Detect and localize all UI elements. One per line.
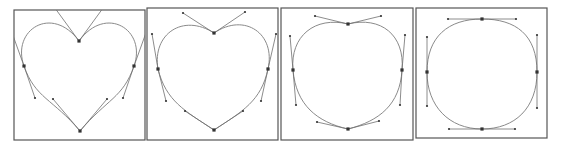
anchor-point-left[interactable]: [425, 70, 428, 73]
panel-frame: [416, 8, 547, 138]
anchor-point-bottom[interactable]: [346, 127, 349, 130]
handle-point[interactable]: [426, 36, 428, 38]
handle-point[interactable]: [105, 3, 107, 5]
panel-rounded-square: [416, 8, 547, 138]
handle-point[interactable]: [165, 100, 167, 102]
panel-heart-soft: [147, 8, 278, 140]
handle-point[interactable]: [52, 98, 54, 100]
handle-point[interactable]: [448, 128, 450, 130]
handle-point[interactable]: [514, 128, 516, 130]
handle-point[interactable]: [182, 12, 184, 14]
handle-point[interactable]: [260, 100, 262, 102]
panel-frame: [147, 8, 278, 140]
handle-point[interactable]: [316, 121, 318, 123]
anchor-point-top[interactable]: [480, 17, 483, 20]
handle-point[interactable]: [289, 35, 291, 37]
anchor-point-right[interactable]: [266, 67, 269, 70]
handle-point[interactable]: [536, 107, 538, 109]
handle-point[interactable]: [447, 18, 449, 20]
handle-point[interactable]: [378, 120, 380, 122]
anchor-point-left[interactable]: [291, 68, 294, 71]
anchor-point-left[interactable]: [22, 64, 25, 67]
handle-point[interactable]: [426, 105, 428, 107]
handle-point[interactable]: [106, 98, 108, 100]
anchor-point-top[interactable]: [77, 39, 80, 42]
handle-point[interactable]: [404, 34, 406, 36]
handle-point[interactable]: [244, 11, 246, 13]
bezier-morph-figure: [0, 0, 561, 145]
handle-point[interactable]: [242, 110, 244, 112]
panel-frame: [281, 8, 413, 140]
handle-point[interactable]: [51, 3, 53, 5]
panel-frame: [14, 10, 145, 140]
panel-apple-shape: [281, 8, 413, 140]
anchor-point-right[interactable]: [535, 70, 538, 73]
anchor-point-bottom[interactable]: [78, 129, 81, 132]
anchor-point-left[interactable]: [156, 67, 159, 70]
handle-point[interactable]: [151, 33, 153, 35]
anchor-point-top[interactable]: [212, 31, 215, 34]
handle-point[interactable]: [10, 29, 12, 31]
anchor-point-bottom[interactable]: [212, 128, 215, 131]
handle-point[interactable]: [536, 34, 538, 36]
handle-point[interactable]: [399, 104, 401, 106]
handle-point[interactable]: [275, 33, 277, 35]
anchor-point-bottom[interactable]: [480, 127, 483, 130]
anchor-point-right[interactable]: [400, 68, 403, 71]
handle-point[interactable]: [295, 104, 297, 106]
panel-heart-sharp: [10, 3, 148, 140]
panels-group: [10, 3, 547, 140]
handle-point[interactable]: [122, 97, 124, 99]
handle-point[interactable]: [314, 15, 316, 17]
handle-point[interactable]: [380, 15, 382, 17]
handle-point[interactable]: [184, 110, 186, 112]
handle-point[interactable]: [515, 18, 517, 20]
anchor-point-top[interactable]: [346, 22, 349, 25]
anchor-point-right[interactable]: [132, 64, 135, 67]
handle-point[interactable]: [34, 97, 36, 99]
